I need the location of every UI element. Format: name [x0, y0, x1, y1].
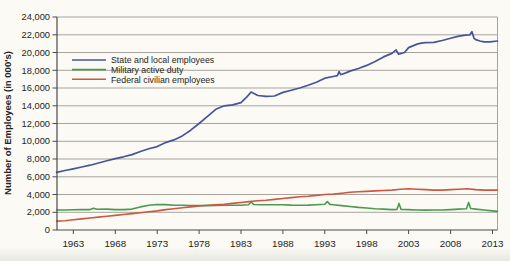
legend-label-1: Military active duty	[111, 65, 184, 75]
y-tick-label: 20,000	[22, 48, 50, 58]
y-tick-label: 8,000	[27, 154, 50, 164]
x-tick-label: 2003	[398, 238, 420, 249]
y-axis-title: Number of Employees (in 000's)	[2, 51, 13, 195]
x-tick-label: 2008	[440, 238, 462, 249]
x-tick-label: 1983	[230, 238, 252, 249]
x-tick-label: 1963	[62, 238, 84, 249]
series-line-1	[57, 202, 498, 212]
y-tick-label: 24,000	[22, 12, 50, 22]
x-tick-label: 1988	[272, 238, 294, 249]
x-tick-label: 1973	[146, 238, 168, 249]
y-tick-label: 22,000	[22, 30, 50, 40]
x-tick-label: 2013	[482, 238, 504, 249]
y-tick-label: 2,000	[27, 207, 50, 217]
line-chart-figure: 02,0004,0006,0008,00010,00012,00014,0001…	[0, 0, 510, 261]
x-tick-label: 1993	[314, 238, 336, 249]
legend-label-2: Federal civilian employees	[111, 75, 215, 85]
y-tick-label: 18,000	[22, 66, 50, 76]
y-tick-label: 0	[45, 225, 50, 235]
y-tick-label: 4,000	[27, 190, 50, 200]
x-tick-label: 1978	[188, 238, 210, 249]
y-tick-label: 16,000	[22, 83, 50, 93]
x-tick-label: 1998	[356, 238, 378, 249]
y-tick-label: 10,000	[22, 136, 50, 146]
y-tick-label: 14,000	[22, 101, 50, 111]
y-tick-label: 6,000	[27, 172, 50, 182]
employees-line-chart: 02,0004,0006,0008,00010,00012,00014,0001…	[0, 0, 510, 261]
y-tick-label: 12,000	[22, 119, 50, 129]
legend-label-0: State and local employees	[111, 55, 215, 65]
x-tick-label: 1968	[104, 238, 126, 249]
